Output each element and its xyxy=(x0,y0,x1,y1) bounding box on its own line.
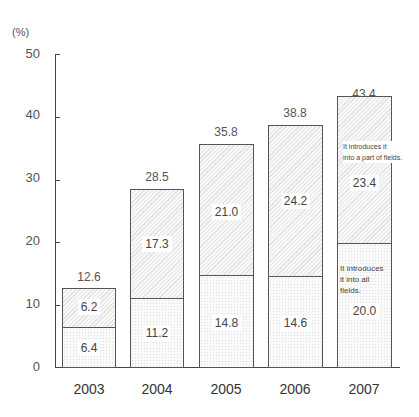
y-tickmark xyxy=(55,242,60,243)
y-tickmark xyxy=(55,117,60,118)
x-label-2005: 2005 xyxy=(199,381,253,397)
y-tick-20: 20 xyxy=(10,233,40,248)
bar-2003-all-value: 6.4 xyxy=(78,340,101,356)
y-tick-50: 50 xyxy=(10,46,40,61)
bar-2005-part-value: 21.0 xyxy=(212,204,241,220)
y-tick-0: 0 xyxy=(10,359,40,374)
y-tickmark xyxy=(55,180,60,181)
bar-2007-part xyxy=(337,96,392,245)
annotation-part-fields: It introduces it into a part of fields. xyxy=(343,141,402,163)
y-tickmark xyxy=(55,54,60,55)
annotation-all-fields: It introduces it into all fields. xyxy=(340,263,384,296)
y-tick-10: 10 xyxy=(10,296,40,311)
x-label-2007: 2007 xyxy=(337,381,391,397)
y-tick-40: 40 xyxy=(10,107,40,122)
bar-2006-part-value: 24.2 xyxy=(281,193,310,209)
x-label-2004: 2004 xyxy=(130,381,184,397)
bar-2007-all-value: 20.0 xyxy=(350,303,379,319)
x-label-2006: 2006 xyxy=(268,381,322,397)
bar-total-2005: 35.8 xyxy=(199,125,253,139)
y-axis-line xyxy=(55,54,56,368)
bar-2004-part-value: 17.3 xyxy=(142,236,171,252)
bar-2004-all-value: 11.2 xyxy=(143,325,171,341)
bar-2006-all-value: 14.6 xyxy=(281,315,310,331)
bar-2005-all-value: 14.8 xyxy=(212,315,241,331)
bar-total-2004: 28.5 xyxy=(130,170,184,184)
y-axis-unit: (%) xyxy=(12,26,29,38)
bar-total-2006: 38.8 xyxy=(268,106,322,120)
y-tick-30: 30 xyxy=(10,170,40,185)
bar-2003-part-value: 6.2 xyxy=(78,299,101,315)
y-tickmark xyxy=(55,305,60,306)
bar-total-2003: 12.6 xyxy=(62,270,116,284)
bar-2007-part-value: 23.4 xyxy=(350,175,379,191)
x-label-2003: 2003 xyxy=(62,381,116,397)
